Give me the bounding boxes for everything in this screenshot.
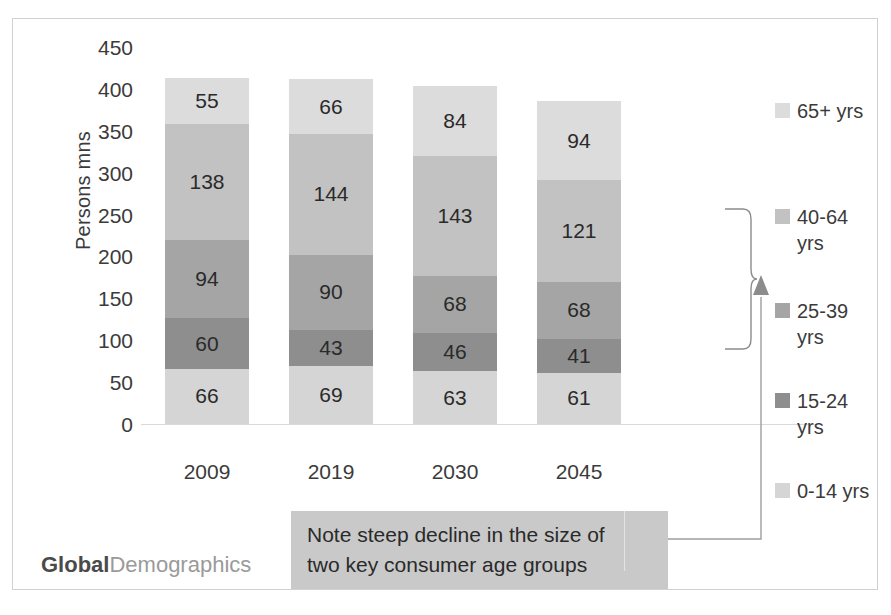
callout-arrow-icon <box>649 267 839 567</box>
x-axis-tick: 2030 <box>385 460 525 484</box>
bar-segment-value: 60 <box>195 332 218 356</box>
bar-segment-value: 66 <box>319 95 342 119</box>
y-axis-tick: 400 <box>73 79 133 100</box>
bar-segment[interactable]: 144 <box>289 134 373 255</box>
bar-segment-value: 84 <box>443 109 466 133</box>
legend-swatch-icon <box>775 103 790 118</box>
y-axis-tick: 0 <box>73 414 133 435</box>
legend-label: 65+ yrs <box>797 99 879 125</box>
bar-segment[interactable]: 68 <box>413 276 497 333</box>
bar-segment-value: 94 <box>195 267 218 291</box>
bar-segment-value: 46 <box>443 340 466 364</box>
bar-segment[interactable]: 84 <box>413 86 497 156</box>
note-callout-box: Note steep decline in the size of two ke… <box>291 511 668 589</box>
bar-segment[interactable]: 46 <box>413 333 497 372</box>
bar-segment[interactable]: 94 <box>537 101 621 180</box>
y-axis-tick-labels: 450400350300250200150100500 <box>63 19 133 589</box>
bar-segment-value: 41 <box>567 344 590 368</box>
bar-segment[interactable]: 90 <box>289 255 373 330</box>
bar-segment-value: 143 <box>437 204 472 228</box>
bar-segment[interactable]: 55 <box>165 78 249 124</box>
x-axis-tick: 2019 <box>261 460 401 484</box>
legend-swatch-icon <box>775 209 790 224</box>
bar-segment[interactable]: 66 <box>289 79 373 134</box>
legend-item[interactable]: 65+ yrs <box>775 99 879 125</box>
x-axis-tick: 2009 <box>137 460 277 484</box>
bar-stack: 69439014466 <box>289 79 373 424</box>
y-axis-tick: 300 <box>73 163 133 184</box>
y-axis-tick: 150 <box>73 288 133 309</box>
y-axis-tick: 350 <box>73 121 133 142</box>
x-axis-tick: 2045 <box>509 460 649 484</box>
bar-segment-value: 94 <box>567 129 590 153</box>
bar-segment-value: 121 <box>561 219 596 243</box>
bar-segment-value: 63 <box>443 386 466 410</box>
logo-demographics-text: Demographics <box>109 552 251 577</box>
bar-segment-value: 90 <box>319 280 342 304</box>
bar-segment[interactable]: 60 <box>165 318 249 368</box>
bar-segment[interactable]: 43 <box>289 330 373 366</box>
bar-segment[interactable]: 63 <box>413 371 497 424</box>
brand-logo: GlobalDemographics <box>41 552 251 578</box>
bar-stack: 66609413855 <box>165 78 249 424</box>
logo-global-text: Global <box>41 552 109 577</box>
note-seam <box>624 511 625 571</box>
legend-item[interactable]: 40-64 yrs <box>775 205 879 256</box>
clipped-title-sliver <box>0 0 891 8</box>
bar-segment[interactable]: 61 <box>537 373 621 424</box>
legend-label: 40-64 yrs <box>797 205 879 256</box>
bar-segment[interactable]: 138 <box>165 124 249 240</box>
bar-segment-value: 43 <box>319 336 342 360</box>
bar-segment[interactable]: 121 <box>537 180 621 281</box>
bar-segment[interactable]: 68 <box>537 282 621 339</box>
bar-segment[interactable]: 41 <box>537 339 621 373</box>
bar-segment[interactable]: 66 <box>165 369 249 424</box>
note-line-2: two key consumer age groups <box>307 550 668 580</box>
bar-segment[interactable]: 69 <box>289 366 373 424</box>
bar-segment-value: 68 <box>443 292 466 316</box>
bar-segment-value: 61 <box>567 386 590 410</box>
note-line-1: Note steep decline in the size of <box>307 520 668 550</box>
bar-stack: 63466814384 <box>413 86 497 424</box>
y-axis-tick: 50 <box>73 372 133 393</box>
bar-segment-value: 55 <box>195 89 218 113</box>
y-axis-tick: 200 <box>73 246 133 267</box>
bar-segment-value: 138 <box>189 170 224 194</box>
y-axis-tick: 450 <box>73 37 133 58</box>
y-axis-tick: 250 <box>73 205 133 226</box>
bar-segment-value: 69 <box>319 383 342 407</box>
bar-stack: 61416812194 <box>537 101 621 424</box>
bar-segment-value: 68 <box>567 298 590 322</box>
bar-segment-value: 144 <box>313 182 348 206</box>
bar-segment[interactable]: 143 <box>413 156 497 276</box>
bar-segment-value: 66 <box>195 384 218 408</box>
y-axis-tick: 100 <box>73 330 133 351</box>
chart-frame: Persons mns 450400350300250200150100500 … <box>12 18 878 590</box>
bar-segment[interactable]: 94 <box>165 240 249 319</box>
